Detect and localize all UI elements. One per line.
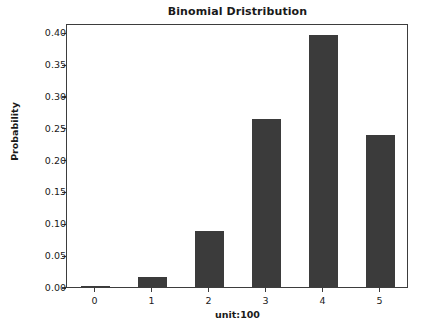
figure-canvas: Binomial Dristribution Probability 0.000… bbox=[0, 0, 425, 328]
y-tick-label: 0.20 bbox=[14, 156, 66, 166]
x-tick-label: 1 bbox=[132, 295, 172, 306]
y-tick-label: 0.15 bbox=[14, 187, 66, 197]
bar-1 bbox=[138, 277, 167, 287]
y-tick-label: 0.00 bbox=[14, 283, 66, 293]
x-tick-mark bbox=[265, 288, 266, 292]
plot-area bbox=[66, 24, 408, 288]
x-tick-label: 2 bbox=[189, 295, 229, 306]
x-tick-label: 3 bbox=[246, 295, 286, 306]
y-tick-label: 0.05 bbox=[14, 251, 66, 261]
bar-0 bbox=[81, 286, 110, 287]
x-tick-mark bbox=[379, 288, 380, 292]
y-tick-label: 0.35 bbox=[14, 60, 66, 70]
y-tick-label: 0.10 bbox=[14, 219, 66, 229]
y-tick-label: 0.40 bbox=[14, 28, 66, 38]
bar-series bbox=[67, 25, 407, 287]
bar-4 bbox=[309, 35, 338, 287]
x-tick-label: 0 bbox=[75, 295, 115, 306]
x-tick-label: 4 bbox=[303, 295, 343, 306]
x-tick-mark bbox=[208, 288, 209, 292]
chart-title: Binomial Dristribution bbox=[66, 5, 409, 19]
x-tick-mark bbox=[94, 288, 95, 292]
x-tick-label: 5 bbox=[360, 295, 400, 306]
bar-3 bbox=[252, 119, 281, 287]
x-axis-label: unit:100 bbox=[66, 309, 409, 320]
bar-5 bbox=[366, 135, 395, 287]
x-tick-mark bbox=[151, 288, 152, 292]
y-tick-label: 0.30 bbox=[14, 92, 66, 102]
bar-2 bbox=[195, 231, 224, 287]
x-tick-mark bbox=[322, 288, 323, 292]
y-tick-label: 0.25 bbox=[14, 124, 66, 134]
